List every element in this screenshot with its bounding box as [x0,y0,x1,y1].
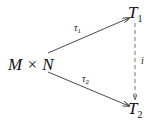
node-t1: T1 [128,3,142,24]
node-t2: T2 [128,99,142,120]
node-m-times-n: M × N [8,55,53,75]
label-tau1-sub: 1 [78,27,82,35]
arrow-tau1 [48,18,129,53]
label-tau2: τ2 [82,73,89,86]
label-tau2-sub: 2 [86,78,90,86]
node-m-times-n-text: M × N [8,55,53,74]
label-i: i [141,55,144,66]
node-t2-sub: 2 [137,109,142,120]
label-i-text: i [141,55,144,66]
label-tau1: τ1 [74,22,81,35]
node-t1-sub: 1 [137,13,142,24]
